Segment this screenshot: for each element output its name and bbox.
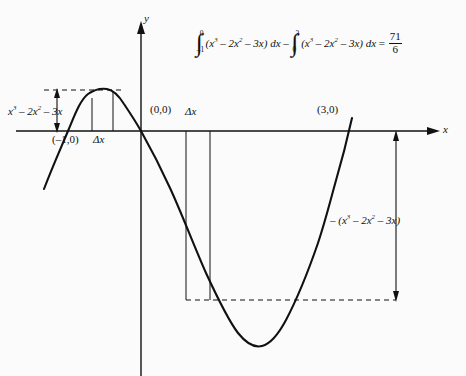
delta-x-label-right: Δx (185, 106, 196, 117)
integral-equation: ∫0–1 (x3 – 2x2 – 3x) dx – ∫30 (x3 – 2x2 … (196, 32, 402, 56)
integral-1-lower-limit: –1 (197, 45, 205, 54)
integral-2-upper-limit: 3 (295, 29, 299, 38)
delta-x-label-left: Δx (93, 134, 104, 145)
x-axis-label: x (443, 124, 448, 135)
integral-2-integrand: (x3 – 2x2 – 3x) (301, 37, 366, 49)
equation-equals-sign: = (379, 37, 385, 49)
integral-1-upper-limit: 0 (200, 29, 204, 38)
cubic-curve (44, 89, 352, 347)
origin-point-label: (0,0) (150, 104, 171, 115)
integral-2-differential: dx (366, 37, 376, 49)
result-denominator: 6 (389, 44, 402, 56)
integral-2-lower-limit: 0 (292, 45, 296, 54)
equation-result-fraction: 71 6 (389, 31, 402, 55)
x-axis-arrowhead (427, 127, 440, 135)
y-axis-label: y (144, 13, 149, 24)
height-label-positive: x3 – 2x2 – 3x (8, 105, 62, 117)
height-label-negative: – (x3 – 2x2 – 3x) (330, 214, 400, 226)
equation-minus-operator: – (283, 37, 289, 49)
root-right-point-label: (3,0) (317, 104, 338, 115)
integral-1-differential: dx (270, 37, 280, 49)
integral-1-integrand: (x3 – 2x2 – 3x) (206, 37, 271, 49)
root-left-point-label: (–1,0) (52, 134, 79, 145)
result-numerator: 71 (389, 31, 402, 44)
graph-figure (0, 0, 466, 376)
